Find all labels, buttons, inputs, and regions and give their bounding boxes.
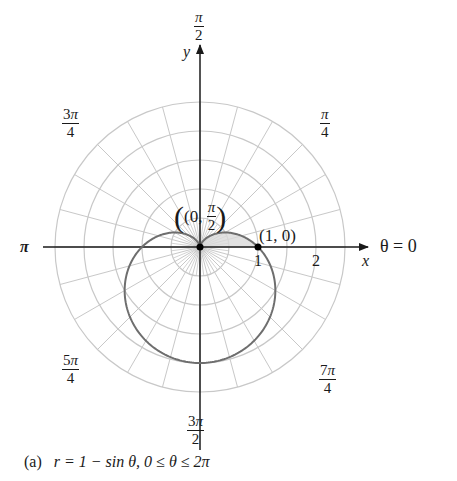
angle-label-pi-over-2: π 2 bbox=[194, 10, 204, 43]
point-origin bbox=[197, 244, 204, 251]
angle-label-pi-over-4: π 4 bbox=[320, 107, 330, 140]
y-axis-label: y bbox=[183, 44, 190, 60]
angle-label-3pi-over-4: 3π 4 bbox=[62, 107, 79, 140]
angle-label-pi: π bbox=[20, 239, 29, 255]
tick-label-2: 2 bbox=[312, 253, 320, 269]
figure-caption: (a) r = 1 − sin θ, 0 ≤ θ ≤ 2π bbox=[24, 453, 210, 471]
angle-label-3pi-over-2: 3π 2 bbox=[187, 414, 204, 447]
caption-equation: r = 1 − sin θ, 0 ≤ θ ≤ 2π bbox=[54, 453, 210, 470]
angle-label-theta-0: θ = 0 bbox=[380, 238, 417, 254]
caption-label: (a) bbox=[24, 453, 42, 470]
x-axis-label: x bbox=[362, 253, 369, 269]
angle-label-5pi-over-4: 5π 4 bbox=[62, 353, 79, 386]
angle-label-7pi-over-4: 7π 4 bbox=[319, 363, 336, 396]
tick-label-1: 1 bbox=[254, 253, 262, 269]
point-label-origin: ( (0, π 2 ) bbox=[174, 200, 226, 233]
point-label-1-0: (1, 0) bbox=[259, 228, 296, 244]
